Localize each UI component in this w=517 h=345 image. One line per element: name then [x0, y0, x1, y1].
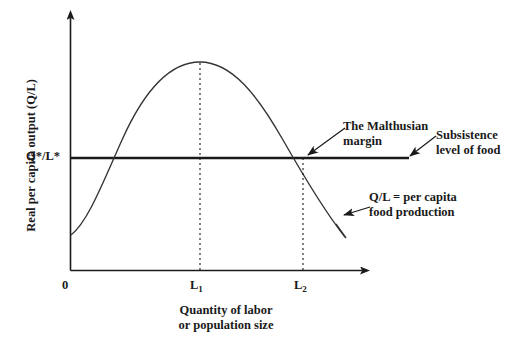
subsistence-line2: level of food	[436, 143, 501, 157]
malthusian-line2: margin	[343, 134, 382, 148]
subsistence-line1: Subsistence	[436, 128, 498, 142]
l2-subscript: 2	[302, 284, 307, 294]
l1-subscript: 1	[198, 284, 203, 294]
malthusian-line1: The Malthusian	[343, 119, 428, 133]
production-line1: Q/L = per capita	[369, 190, 457, 204]
malthusian-margin-annotation: The Malthusianmargin	[343, 119, 428, 149]
per-capita-output-curve	[71, 62, 345, 237]
q-star-text: Q*/L*	[26, 149, 60, 163]
x-axis-title: Quantity of laboror population size	[150, 303, 302, 333]
production-line2: food production	[369, 205, 455, 219]
x-axis-title-line1: Quantity of labor	[179, 303, 272, 317]
malthusian-diagram: Real per capita output (Q/L) Q*/L* 0 L1 …	[0, 0, 517, 345]
malthusian-margin-leader	[308, 128, 345, 155]
diagram-canvas	[0, 0, 517, 345]
subsistence-level-annotation: Subsistencelevel of food	[436, 128, 501, 158]
y-axis-tick-label-q-star: Q*/L*	[26, 149, 60, 164]
x-axis-tick-label-zero: 0	[62, 278, 68, 293]
production-curve-annotation: Q/L = per capitafood production	[369, 190, 457, 220]
x-axis-tick-label-l2: L2	[294, 278, 307, 294]
x-axis-title-line2: or population size	[179, 318, 274, 332]
x-axis-tick-label-l1: L1	[190, 278, 203, 294]
production-leader	[344, 207, 370, 215]
curve-tail	[336, 224, 346, 238]
